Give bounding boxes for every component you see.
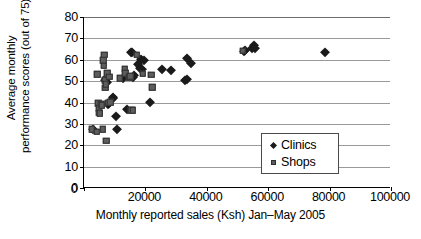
legend-label-clinics: Clinics	[279, 139, 316, 152]
gridline	[84, 145, 390, 146]
data-point-clinics	[111, 111, 120, 120]
data-point-shops	[239, 48, 246, 55]
chart-legend: Clinics Shops	[261, 133, 339, 174]
data-point-shops	[149, 84, 156, 91]
x-axis-tick-label: 40000	[189, 190, 222, 204]
data-point-shops	[107, 99, 114, 106]
x-axis-tick-label: 100000	[370, 190, 410, 204]
y-axis-tick-mark	[80, 124, 84, 125]
data-point-shops	[101, 51, 108, 58]
y-axis-tick-label: 10	[52, 161, 78, 174]
data-point-clinics	[320, 47, 329, 56]
square-marker-icon	[267, 160, 279, 165]
legend-item-shops[interactable]: Shops	[267, 154, 338, 171]
plot-area	[83, 17, 390, 188]
data-point-shops	[94, 71, 101, 78]
data-point-shops	[134, 52, 141, 59]
scatter-chart: Average monthly performance scores (out …	[0, 0, 421, 239]
gridline	[84, 167, 390, 168]
legend-label-shops: Shops	[279, 156, 315, 169]
data-point-clinics	[146, 97, 155, 106]
gridline	[84, 103, 390, 104]
data-point-shops	[101, 62, 108, 69]
y-axis-tick-mark	[80, 60, 84, 61]
data-point-shops	[148, 72, 155, 79]
data-point-shops	[99, 126, 106, 133]
y-axis-tick-label: 70	[52, 32, 78, 45]
y-axis-tick-label: 30	[52, 118, 78, 131]
y-axis-tick-mark	[80, 145, 84, 146]
gridline	[84, 81, 390, 82]
y-axis-tick-label: 50	[52, 75, 78, 88]
data-point-shops	[103, 138, 110, 145]
y-axis-tick-label: 40	[52, 97, 78, 110]
data-point-shops	[140, 71, 147, 78]
y-axis-title: Average monthly performance scores (out …	[5, 3, 45, 153]
data-point-clinics	[157, 64, 166, 73]
x-axis-tick-label: 20000	[128, 190, 161, 204]
gridline	[84, 38, 390, 39]
y-axis-tick-label: 80	[52, 11, 78, 24]
data-point-shops	[103, 81, 110, 88]
gridline	[84, 17, 390, 18]
y-axis-tick-mark	[80, 17, 84, 18]
x-axis-tick-label: 80000	[312, 190, 345, 204]
y-axis-tick-mark	[80, 81, 84, 82]
y-axis-tick-label: 60	[52, 54, 78, 67]
y-axis-tick-mark	[80, 38, 84, 39]
y-axis-tick-label: 20	[52, 139, 78, 152]
diamond-marker-icon	[267, 143, 279, 148]
x-axis-tick-label-zero: 0	[71, 182, 78, 196]
gridline	[84, 60, 390, 61]
legend-item-clinics[interactable]: Clinics	[267, 137, 338, 154]
x-axis-tick-label: 60000	[251, 190, 284, 204]
y-axis-title-line-2: performance scores (out of 75)	[19, 3, 33, 153]
x-axis-title: Monthly reported sales (Ksh) Jan–May 200…	[0, 208, 421, 222]
y-axis-tick-mark	[80, 167, 84, 168]
data-point-clinics	[167, 66, 176, 75]
data-point-clinics	[112, 124, 121, 133]
x-axis-tick-labels: 200004000060000800001000000	[0, 190, 421, 206]
data-point-shops	[129, 107, 136, 114]
data-point-shops	[96, 110, 103, 117]
y-axis-tick-mark	[80, 103, 84, 104]
y-axis-title-line-1: Average monthly	[5, 3, 19, 153]
data-point-shops	[106, 74, 113, 81]
data-point-shops	[127, 73, 134, 80]
gridline	[84, 124, 390, 125]
